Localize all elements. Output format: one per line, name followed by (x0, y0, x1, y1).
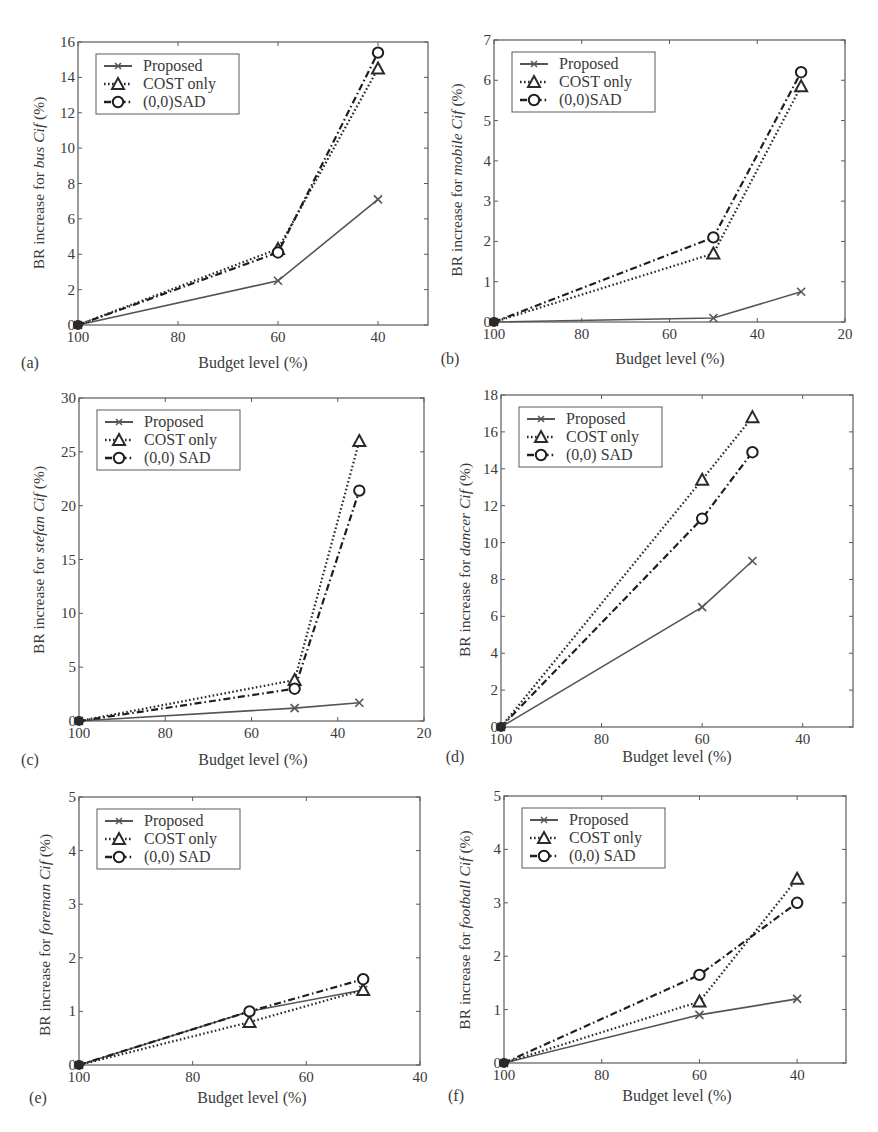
y-label-sequence: foreman Cif (36, 858, 53, 935)
data-point-marker (708, 232, 718, 242)
panel-label: (d) (446, 748, 465, 766)
panel-label: (a) (21, 354, 39, 372)
legend-label: Proposed (569, 811, 629, 829)
y-tick-label: 14 (60, 69, 76, 85)
legend-label: COST only (143, 75, 216, 93)
legend-label: (0,0)SAD (559, 91, 622, 109)
y-tick-label: 10 (61, 605, 76, 621)
y-tick-label: 4 (68, 246, 76, 262)
y-label-prefix: BR increase for (456, 556, 473, 657)
x-axis-label: Budget level (%) (198, 354, 307, 372)
y-tick-label: 5 (69, 659, 77, 675)
x-tick-label: 80 (185, 1069, 200, 1085)
y-label-prefix: BR increase for (30, 168, 47, 269)
legend-label: Proposed (144, 413, 204, 431)
y-tick-label: 6 (68, 211, 76, 227)
y-tick-label: 25 (61, 444, 76, 460)
x-axis-label: Budget level (%) (198, 751, 307, 769)
y-label-suffix: (%) (36, 834, 54, 861)
x-tick-label: 40 (795, 731, 810, 747)
x-axis-label: Budget level (%) (615, 350, 724, 368)
y-label-suffix: (%) (30, 97, 48, 124)
y-label-suffix: (%) (448, 83, 466, 110)
y-tick-label: 30 (61, 390, 76, 406)
x-tick-label: 40 (371, 329, 386, 345)
legend-label: COST only (559, 73, 632, 91)
y-tick-label: 1 (69, 1003, 77, 1019)
legend-label: Proposed (566, 410, 626, 428)
legend-label: Proposed (559, 55, 619, 73)
y-tick-label: 3 (494, 895, 502, 911)
x-tick-label: 20 (838, 326, 853, 342)
y-axis-label: BR increase for bus Cif (%) (30, 97, 48, 270)
legend-label: COST only (144, 830, 217, 848)
y-tick-label: 1 (494, 1002, 502, 1018)
legend-circle-icon (529, 95, 539, 105)
chart-panel-f: 100806040012345ProposedCOST only(0,0) SA… (448, 788, 846, 1105)
legend-label: COST only (569, 829, 642, 847)
y-tick-label: 10 (60, 140, 75, 156)
legend-label: (0,0)SAD (143, 93, 206, 111)
panel-label: (e) (29, 1089, 47, 1107)
legend: ProposedCOST only(0,0) SAD (522, 808, 665, 868)
y-tick-label: 4 (69, 843, 77, 859)
y-tick-label: 4 (491, 645, 499, 661)
data-point-marker (792, 898, 802, 908)
chart-panel-b: 1008060402001234567ProposedCOST only(0,0… (441, 32, 853, 368)
legend: ProposedCOST only(0,0)SAD (96, 54, 239, 114)
legend-label: Proposed (143, 57, 203, 75)
data-point-marker (289, 684, 299, 694)
x-tick-label: 40 (750, 326, 765, 342)
y-tick-label: 5 (484, 113, 492, 129)
y-tick-label: 20 (61, 498, 76, 514)
legend: ProposedCOST only(0,0)SAD (512, 52, 655, 112)
y-label-suffix: (%) (30, 466, 48, 493)
legend: ProposedCOST only(0,0) SAD (97, 410, 240, 470)
data-point-marker (694, 970, 704, 980)
y-axis-label: BR increase for stefan Cif (%) (30, 466, 48, 654)
y-tick-label: 12 (483, 498, 498, 514)
y-label-sequence: stefan Cif (30, 490, 47, 553)
y-tick-label: 6 (491, 608, 499, 624)
y-tick-label: 5 (494, 788, 502, 804)
y-tick-label: 8 (491, 571, 499, 587)
data-point-marker (373, 47, 383, 57)
legend-label: COST only (144, 431, 217, 449)
y-tick-label: 3 (484, 193, 492, 209)
y-tick-label: 5 (69, 789, 77, 805)
x-tick-label: 60 (271, 329, 286, 345)
data-point-marker (273, 247, 283, 257)
x-tick-label: 60 (662, 326, 677, 342)
data-point-marker (358, 974, 368, 984)
y-tick-label: 2 (494, 948, 502, 964)
origin-marker (74, 716, 84, 726)
panel-label: (f) (448, 1087, 464, 1105)
x-tick-label: 80 (594, 1067, 609, 1083)
y-tick-label: 16 (483, 424, 499, 440)
y-axis-label: BR increase for foreman Cif (%) (36, 834, 54, 1036)
legend-label: (0,0) SAD (569, 847, 636, 865)
y-tick-label: 4 (484, 153, 492, 169)
y-tick-label: 14 (483, 461, 499, 477)
y-axis-label: BR increase for mobile Cif (%) (448, 83, 466, 276)
y-tick-label: 8 (68, 176, 76, 192)
legend: ProposedCOST only(0,0) SAD (519, 407, 662, 467)
x-tick-label: 60 (299, 1069, 314, 1085)
x-tick-label: 20 (417, 725, 432, 741)
y-label-suffix: (%) (456, 463, 474, 490)
y-tick-label: 10 (483, 535, 498, 551)
y-tick-label: 6 (484, 72, 492, 88)
x-tick-label: 40 (790, 1067, 805, 1083)
x-tick-label: 80 (574, 326, 589, 342)
y-tick-label: 18 (483, 387, 498, 403)
y-tick-label: 2 (484, 233, 492, 249)
y-label-sequence: mobile Cif (448, 108, 465, 176)
data-point-marker (796, 67, 806, 77)
legend-label: (0,0) SAD (566, 446, 633, 464)
chart-panel-a: 1008060400246810121416ProposedCOST only(… (21, 34, 428, 372)
y-tick-label: 2 (491, 682, 499, 698)
origin-marker (489, 317, 499, 327)
y-tick-label: 4 (494, 841, 502, 857)
x-tick-label: 60 (695, 731, 710, 747)
data-point-marker (354, 485, 364, 495)
